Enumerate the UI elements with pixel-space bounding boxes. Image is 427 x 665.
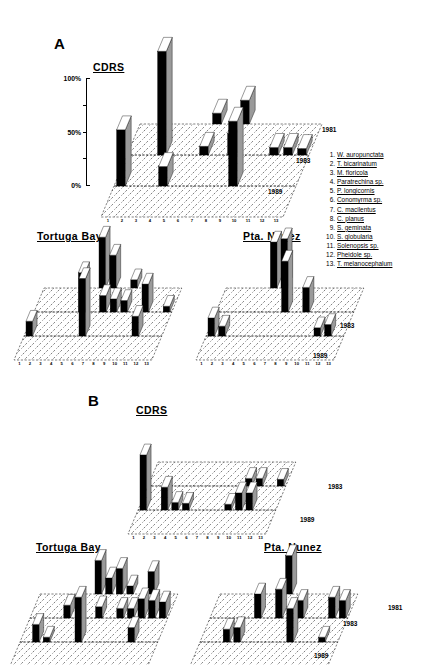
legend-item-name: S. geminata (337, 224, 371, 231)
svg-text:2: 2 (29, 361, 32, 366)
plot-b-pta-nunez: 12345678910111213 (190, 530, 376, 662)
svg-text:10: 10 (112, 361, 117, 366)
legend-item: 13.T. melanocephalum (325, 259, 392, 268)
legend-item: 2.T. bicarinatum (325, 159, 392, 168)
svg-text:13: 13 (144, 361, 149, 366)
plot-b-tortuga-bay: 12345678910111213 (10, 530, 196, 662)
svg-text:11: 11 (305, 361, 310, 366)
legend-item-number: 5. (325, 186, 335, 195)
legend-item-name: C. macilentus (337, 206, 376, 213)
svg-text:10: 10 (294, 361, 299, 366)
plot-a-cdrs: 12345678910111213 (100, 30, 335, 200)
legend-item-name: C. planus (337, 215, 364, 222)
legend-item-number: 2. (325, 159, 335, 168)
y-axis-cap-bottom (86, 185, 90, 186)
year-label-a-cdrs-1983: 1983 (296, 157, 310, 164)
y-axis-cap-top (86, 78, 90, 79)
legend-item: 4.Paratrechina sp. (325, 177, 392, 186)
legend-item-name: T. melanocephalum (337, 260, 392, 267)
svg-text:3: 3 (39, 361, 42, 366)
legend-item-name: Conomyrma sp. (337, 196, 382, 203)
legend-item: 11.Solenopsis sp. (325, 241, 392, 250)
stray-year-label-1981: 1981 (388, 604, 402, 611)
legend-item: 1.W. auropunctata (325, 150, 392, 159)
legend-item-number: 8. (325, 214, 335, 223)
svg-text:7: 7 (264, 361, 267, 366)
svg-text:9: 9 (103, 361, 106, 366)
year-label-a-cdrs-1981: 1981 (322, 126, 336, 133)
svg-text:8: 8 (274, 361, 277, 366)
legend-item-number: 10. (325, 232, 335, 241)
legend-item-name: P. longicornis (337, 187, 375, 194)
panel-letter-b: B (88, 392, 99, 409)
y-axis-label-0: 0% (71, 182, 81, 189)
species-legend: 1.W. auropunctata 2.T. bicarinatum 3.M. … (325, 150, 392, 268)
panel-letter-a: A (54, 35, 65, 52)
svg-text:13: 13 (326, 361, 331, 366)
legend-item: 10.S. globularia (325, 232, 392, 241)
y-axis-tick (83, 158, 87, 159)
svg-text:2: 2 (211, 361, 214, 366)
year-label-a-nunez-1983: 1983 (340, 322, 354, 329)
svg-text:7: 7 (82, 361, 85, 366)
legend-item: 12.Pheidole sp. (325, 250, 392, 259)
svg-text:4: 4 (50, 361, 53, 366)
legend-item-name: Paratrechina sp. (337, 178, 384, 185)
legend-item-name: T. bicarinatum (337, 160, 377, 167)
y-axis-label-100: 100% (64, 75, 81, 82)
legend-item-number: 6. (325, 195, 335, 204)
year-label-a-nunez-1989: 1989 (313, 352, 327, 359)
y-axis-tick (83, 105, 87, 106)
legend-item-number: 7. (325, 205, 335, 214)
legend-item-number: 4. (325, 177, 335, 186)
legend-item: 3.M. floricola (325, 168, 392, 177)
svg-text:1: 1 (18, 361, 21, 366)
plot-b-cdrs: 12345678910111213 (128, 392, 314, 532)
year-label-b-nunez-1983: 1983 (343, 620, 357, 627)
svg-text:1: 1 (200, 361, 203, 366)
year-label-b-cdrs-1983: 1983 (328, 483, 342, 490)
legend-item: 5.P. longicornis (325, 186, 392, 195)
legend-item-name: W. auropunctata (337, 151, 384, 158)
svg-text:8: 8 (92, 361, 95, 366)
legend-item-name: Solenopsis sp. (337, 242, 379, 249)
legend-item: 8.C. planus (325, 214, 392, 223)
svg-text:9: 9 (285, 361, 288, 366)
y-axis-cdrs-a: 100% 50% 0% (86, 78, 87, 186)
legend-item-number: 9. (325, 223, 335, 232)
plot-a-tortuga-bay: 12345678910111213 (14, 218, 200, 358)
legend-item-name: Pheidole sp. (337, 251, 372, 258)
legend-item-name: S. globularia (337, 233, 373, 240)
svg-text:6: 6 (71, 361, 74, 366)
legend-item-number: 11. (325, 241, 335, 250)
legend-item-number: 12. (325, 250, 335, 259)
year-label-b-cdrs-1989: 1989 (300, 516, 314, 523)
y-axis-label-50: 50% (67, 128, 81, 135)
figure-canvas: A CDRS 100% 50% 0% 12345678910111213 198… (0, 0, 427, 665)
legend-item: 9.S. geminata (325, 223, 392, 232)
legend-item-name: M. floricola (337, 169, 368, 176)
legend-item: 7.C. macilentus (325, 205, 392, 214)
legend-item: 6.Conomyrma sp. (325, 195, 392, 204)
svg-text:12: 12 (134, 361, 139, 366)
svg-text:6: 6 (253, 361, 256, 366)
svg-text:3: 3 (221, 361, 224, 366)
legend-item-number: 3. (325, 168, 335, 177)
legend-item-number: 13. (325, 259, 335, 268)
svg-text:5: 5 (61, 361, 64, 366)
year-label-a-cdrs-1989: 1989 (268, 188, 282, 195)
y-axis-tick (83, 132, 87, 133)
svg-text:4: 4 (232, 361, 235, 366)
legend-item-number: 1. (325, 150, 335, 159)
year-label-b-nunez-1989: 1989 (314, 652, 328, 659)
svg-text:5: 5 (243, 361, 246, 366)
svg-text:11: 11 (123, 361, 128, 366)
svg-text:12: 12 (316, 361, 321, 366)
